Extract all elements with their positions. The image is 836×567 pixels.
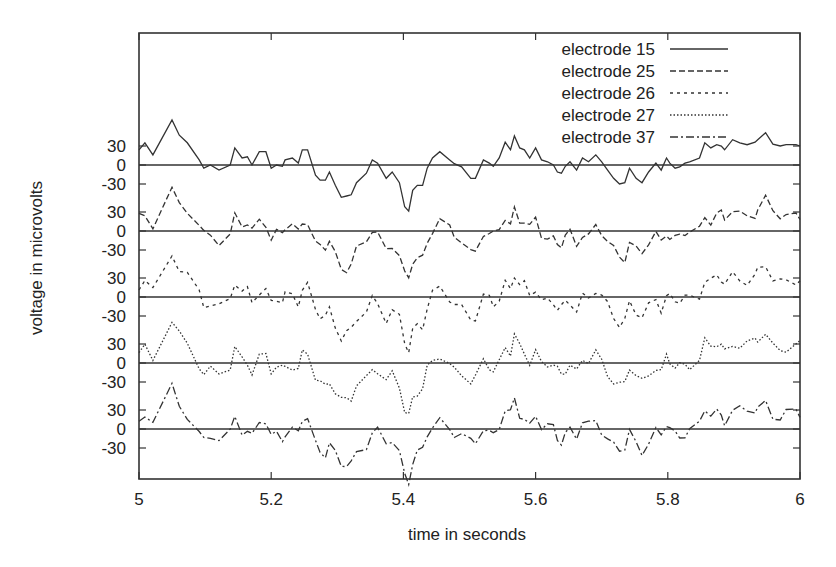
trace-baselines [139, 165, 800, 429]
legend: electrode 15electrode 25electrode 26elec… [561, 40, 728, 147]
trace-electrode-37 [139, 383, 800, 484]
plot-area-border [139, 33, 800, 479]
y-tick-label: 30 [107, 335, 126, 354]
x-tick-label: 5.2 [259, 490, 283, 509]
y-tick-label: 0 [117, 420, 126, 439]
y-tick-label: 0 [117, 288, 126, 307]
legend-label: electrode 26 [561, 84, 655, 103]
plot-frame [139, 33, 800, 479]
trace-electrode-26 [139, 256, 800, 353]
y-tick-label: 0 [117, 156, 126, 175]
eeg-chart: 300-30300-30300-30300-30300-30 55.25.45.… [0, 0, 836, 567]
trace-lines [139, 120, 800, 485]
x-axis-title: time in seconds [408, 525, 526, 544]
x-tick-label: 5.8 [656, 490, 680, 509]
y-axis-title: voltage in microvolts [27, 181, 46, 335]
legend-label: electrode 25 [561, 62, 655, 81]
x-tick-label: 6 [795, 490, 804, 509]
y-tick-label: 0 [117, 354, 126, 373]
x-tick-label: 5.6 [524, 490, 548, 509]
y-tick-label: 30 [107, 137, 126, 156]
trace-electrode-25 [139, 187, 800, 278]
y-tick-label: -30 [101, 307, 126, 326]
x-tick-label: 5.4 [392, 490, 416, 509]
y-tick-label: -30 [101, 439, 126, 458]
y-tick-label: -30 [101, 241, 126, 260]
y-tick-label: 30 [107, 401, 126, 420]
trace-electrode-27 [139, 322, 800, 413]
y-tick-label: -30 [101, 175, 126, 194]
legend-label: electrode 37 [561, 128, 655, 147]
y-tick-label: 30 [107, 269, 126, 288]
y-tick-label: -30 [101, 373, 126, 392]
legend-label: electrode 15 [561, 40, 655, 59]
x-tick-label: 5 [134, 490, 143, 509]
legend-label: electrode 27 [561, 106, 655, 125]
y-tick-label: 30 [107, 203, 126, 222]
y-tick-label: 0 [117, 222, 126, 241]
